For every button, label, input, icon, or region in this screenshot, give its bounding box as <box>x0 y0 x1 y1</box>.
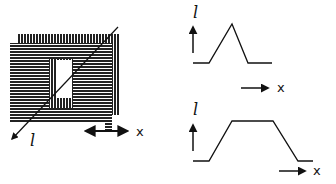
triangular-profile-curve <box>193 24 272 63</box>
top-plot-x-label: x <box>277 80 285 95</box>
trapezoidal-profile-curve <box>193 121 313 161</box>
right-vertical-stripe-strip <box>112 34 119 115</box>
bottom-plot-l-label: l <box>193 100 198 119</box>
top-plot-l-label: l <box>193 3 198 22</box>
top-vertical-stripe-strip <box>17 34 118 43</box>
bottom-right-plot: l x <box>193 100 321 178</box>
bottom-plot-x-label: x <box>313 163 321 178</box>
bottom-stub <box>105 122 112 131</box>
x-axis-label: x <box>136 124 144 139</box>
top-right-plot: l x <box>193 3 285 95</box>
l-axis-label: l <box>30 131 35 150</box>
diagram-canvas: l x l x l x <box>0 0 336 184</box>
striped-structure <box>10 34 119 131</box>
